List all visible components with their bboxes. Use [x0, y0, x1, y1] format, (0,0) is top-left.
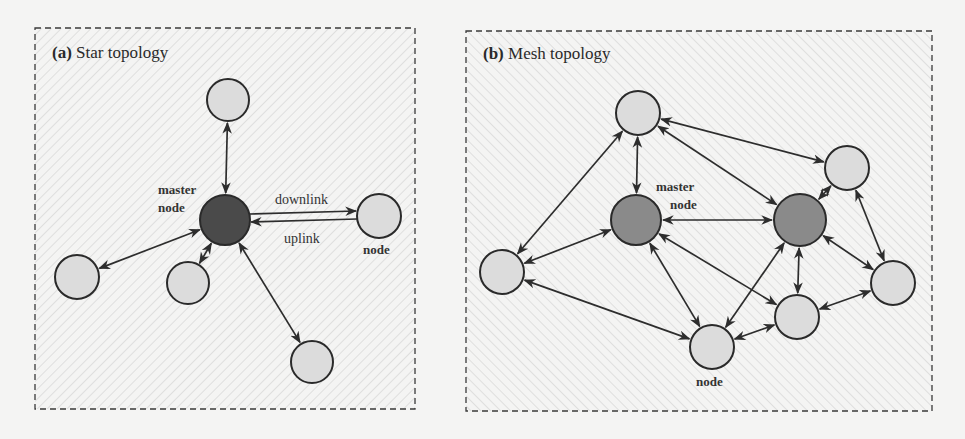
panel-b-title: (b) Mesh topology — [483, 44, 611, 63]
node-top — [616, 91, 660, 135]
node-right — [357, 194, 401, 238]
master-node-label-line2: node — [670, 197, 697, 212]
node-left — [55, 255, 99, 299]
master-node-label-line1: master — [656, 179, 694, 194]
panel-star-topology: (a) Star topology master node downlink u… — [35, 28, 415, 409]
node-bottom — [690, 325, 734, 369]
master-node-master — [200, 195, 250, 245]
node-label: node — [363, 242, 390, 257]
node-topright — [825, 146, 869, 190]
uplink-label: uplink — [284, 231, 320, 246]
panel-mesh-topology: (b) Mesh topology master node node — [466, 31, 932, 411]
node-left — [480, 250, 524, 294]
downlink-label: downlink — [275, 192, 328, 207]
master-node-m2 — [774, 194, 826, 246]
node-bottom — [291, 341, 333, 383]
panel-a-title: (a) Star topology — [52, 43, 169, 62]
figure: (a) Star topology master node downlink u… — [0, 0, 965, 439]
node-lowmid — [167, 262, 209, 304]
node-midlow — [775, 295, 819, 339]
node-label: node — [696, 374, 723, 389]
master-node-label-line2: node — [158, 200, 185, 215]
node-right — [871, 261, 915, 305]
edge-top-m1 — [637, 137, 638, 193]
master-node-m1 — [611, 195, 661, 245]
master-node-label-line1: master — [158, 182, 196, 197]
node-top — [207, 79, 249, 121]
